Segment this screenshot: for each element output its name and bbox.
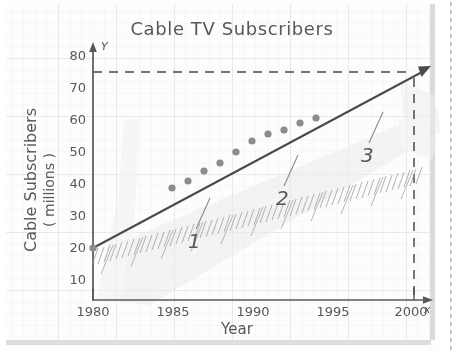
- data-point: [89, 244, 96, 251]
- y-tick-label: 10: [69, 272, 86, 287]
- x-tick-label: 1990: [236, 304, 269, 319]
- y-tick-label: 30: [69, 208, 86, 223]
- y-tick-label: 20: [69, 240, 86, 255]
- data-point: [168, 184, 175, 191]
- x-axis-title: Year: [220, 320, 254, 338]
- data-point: [264, 130, 271, 137]
- data-point: [280, 126, 287, 133]
- annotation-label-2: 2: [276, 186, 289, 210]
- chart-title: Cable TV Subscribers: [130, 18, 333, 39]
- y-tick-label: 40: [69, 176, 86, 191]
- annotation-label-3: 3: [361, 143, 374, 167]
- data-point: [312, 114, 319, 121]
- cable-tv-subscribers-chart: 1 2 3 Cable TV Subscribers Y x 80 70 60 …: [0, 0, 458, 351]
- page-right-margin: [435, 0, 458, 351]
- x-tick-label: 1985: [156, 304, 189, 319]
- data-point: [248, 137, 255, 144]
- page-right-shadow: [430, 4, 435, 340]
- page-bottom-shadow: [6, 340, 431, 345]
- data-point: [296, 119, 303, 126]
- page-left-margin: [0, 0, 6, 351]
- data-point: [216, 159, 223, 166]
- x-tick-label: 1995: [316, 304, 349, 319]
- graph-paper-page: 1 2 3 Cable TV Subscribers Y x 80 70 60 …: [0, 0, 458, 351]
- annotation-label-1: 1: [188, 229, 201, 253]
- x-tick-label: 2000: [394, 304, 427, 319]
- y-tick-label: 70: [69, 80, 86, 95]
- data-point: [232, 148, 239, 155]
- y-tick-label: 80: [69, 48, 86, 63]
- data-point: [184, 177, 191, 184]
- y-axis-title-line1: Cable Subscribers: [21, 108, 40, 252]
- y-axis-title-line2: ( millions ): [41, 153, 57, 227]
- y-tick-label: 60: [69, 112, 86, 127]
- y-tick-label: 50: [69, 144, 86, 159]
- data-point: [200, 167, 207, 174]
- x-tick-label: 1980: [76, 304, 109, 319]
